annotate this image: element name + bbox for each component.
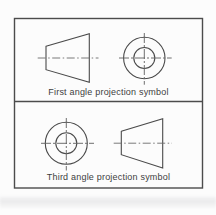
third-angle-cone-outline-icon	[121, 119, 162, 168]
third-angle-symbol-group	[39, 116, 172, 171]
third-angle-caption: Third angle projection symbol	[14, 172, 203, 183]
projection-symbols-diagram: First angle projection symbol Third angl…	[0, 0, 216, 215]
first-angle-symbol-group	[38, 31, 172, 85]
first-angle-caption: First angle projection symbol	[14, 87, 203, 98]
diagram-border	[15, 19, 203, 189]
